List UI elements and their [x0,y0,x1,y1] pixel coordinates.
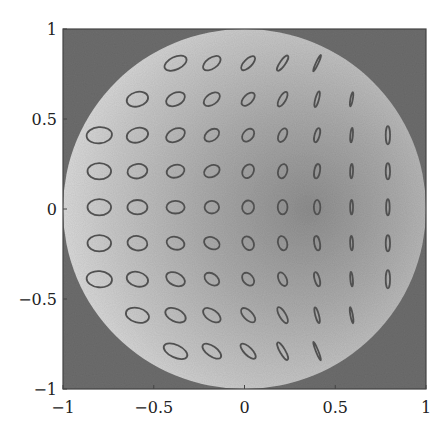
y-tick-label: 1 [47,20,57,39]
x-tick-label: 0 [239,398,249,417]
x-tick-label: 1 [421,398,431,417]
ellipse-field-plot: −1−0.500.51 10.50−0.5−1 [0,0,448,437]
y-axis: 10.50−0.5−1 [18,20,67,399]
plot-area [63,29,426,389]
y-tick-label: 0 [47,200,57,219]
x-tick-label: 0.5 [323,398,348,417]
y-tick-label: −0.5 [18,290,57,309]
x-tick-label: −0.5 [134,398,173,417]
y-tick-label: −1 [33,380,57,399]
figure: −1−0.500.51 10.50−0.5−1 [0,0,448,437]
x-tick-label: −1 [51,398,75,417]
x-axis: −1−0.500.51 [51,385,431,417]
bright-disk [63,29,426,389]
y-tick-label: 0.5 [32,110,57,129]
